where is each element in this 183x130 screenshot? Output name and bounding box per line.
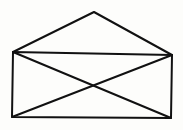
envelope-diagram xyxy=(0,0,183,130)
envelope-flap xyxy=(13,12,172,55)
